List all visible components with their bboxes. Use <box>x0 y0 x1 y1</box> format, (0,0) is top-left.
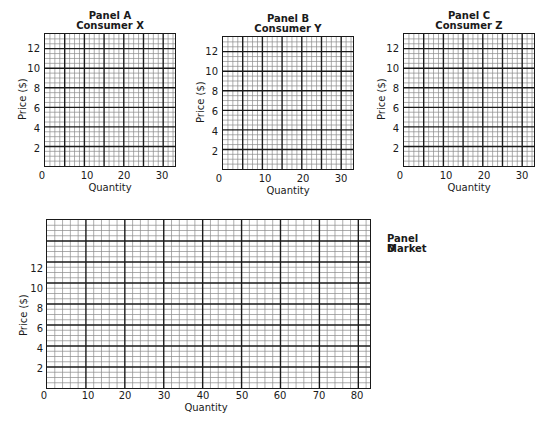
panel-b-xtick: 30 <box>329 174 353 184</box>
panel-a-xtick: 10 <box>75 171 99 181</box>
panel-b-xtick: 20 <box>291 174 315 184</box>
panel-d-subtitle: Market <box>387 244 427 254</box>
panel-c-xtick: 10 <box>434 171 458 181</box>
panel-b-ytick: 12 <box>202 47 218 57</box>
panel-d-xtick: 30 <box>152 391 176 401</box>
grid-lines <box>45 34 175 166</box>
panel-a-xlabel: Quantity <box>80 183 140 193</box>
panel-c-ytick: 10 <box>383 64 399 74</box>
panel-b-grid[interactable] <box>222 36 354 170</box>
panel-b-xtick: 10 <box>253 174 277 184</box>
panel-c-xtick: 20 <box>472 171 496 181</box>
panel-d-ytick: 8 <box>27 304 43 314</box>
panel-d-ytick: 10 <box>27 284 43 294</box>
panel-a-ytick: 10 <box>24 64 40 74</box>
panel-d-ytick: 12 <box>27 264 43 274</box>
panel-b-ylabel: Price ($) <box>196 81 206 123</box>
panel-d-xtick: 60 <box>268 391 292 401</box>
panel-c-subtitle: Consumer Z <box>429 21 509 31</box>
panel-d-xtick: 50 <box>230 391 254 401</box>
panel-b-xtick: 0 <box>207 174 231 184</box>
panel-a-ytick: 2 <box>24 144 40 154</box>
panel-a-ytick: 4 <box>24 124 40 134</box>
panel-d-xtick: 40 <box>191 391 215 401</box>
panel-a-xtick: 0 <box>30 171 54 181</box>
panel-d-xtick: 70 <box>307 391 331 401</box>
panel-b-ytick: 4 <box>202 127 218 137</box>
panel-d-xlabel: Quantity <box>166 403 246 413</box>
panel-d-grid[interactable] <box>46 219 371 389</box>
panel-d-xtick: 0 <box>32 391 56 401</box>
panel-c-ytick: 12 <box>383 44 399 54</box>
panel-c-ylabel: Price ($) <box>377 78 387 120</box>
panel-c-xtick: 0 <box>388 171 412 181</box>
panel-c-ytick: 2 <box>383 144 399 154</box>
panel-c-grid[interactable] <box>403 33 535 167</box>
panel-d-ytick: 6 <box>27 324 43 334</box>
panel-d-ytick: 4 <box>27 344 43 354</box>
panel-b-xlabel: Quantity <box>258 186 318 196</box>
panel-c-ytick: 4 <box>383 124 399 134</box>
panel-c-xlabel: Quantity <box>439 183 499 193</box>
grid-lines <box>404 34 534 166</box>
panel-a-grid[interactable] <box>44 33 176 167</box>
panel-d-xtick: 80 <box>345 391 369 401</box>
panel-b-ytick: 2 <box>202 147 218 157</box>
panel-a-subtitle: Consumer X <box>70 21 150 31</box>
panel-b-ytick: 10 <box>202 67 218 77</box>
panel-a-xtick: 30 <box>150 171 174 181</box>
panel-a-ytick: 12 <box>24 44 40 54</box>
panel-d-ylabel: Price ($) <box>19 294 29 336</box>
grid-lines <box>47 220 370 388</box>
panel-d-ytick: 2 <box>27 364 43 374</box>
panel-d-xtick: 10 <box>76 391 100 401</box>
panel-c-xtick: 30 <box>510 171 534 181</box>
panel-a-ylabel: Price ($) <box>18 78 28 120</box>
grid-lines <box>223 37 353 169</box>
panel-d-xtick: 20 <box>113 391 137 401</box>
panel-b-subtitle: Consumer Y <box>248 24 328 34</box>
panel-a-xtick: 20 <box>112 171 136 181</box>
